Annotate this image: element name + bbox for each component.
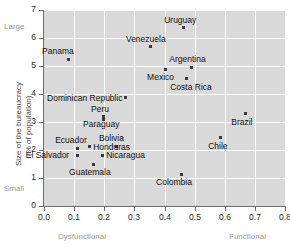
x-axis-label-functional: Functional	[229, 232, 266, 241]
data-point-label-ecuador: Ecuador	[55, 136, 87, 145]
data-point-dominican-republic[interactable]	[124, 96, 127, 99]
data-point-nicaragua[interactable]	[101, 154, 104, 157]
data-point-mexico[interactable]	[164, 68, 167, 71]
y-tick-label: 1	[20, 173, 36, 182]
data-point-el-salvador[interactable]	[76, 154, 79, 157]
data-point-label-dominican-republic: Dominican Republic	[47, 94, 123, 103]
grid-line-vertical	[195, 10, 196, 206]
data-point-panama[interactable]	[67, 58, 70, 61]
data-point-label-mexico: Mexico	[147, 73, 174, 82]
data-point-colombia[interactable]	[180, 173, 183, 176]
data-point-costa-rica[interactable]	[185, 77, 188, 80]
x-tick-mark	[195, 207, 196, 211]
data-point-label-peru: Peru	[91, 105, 109, 114]
x-tick-label: 0.4	[151, 213, 179, 222]
x-tick-label: 0.0	[30, 213, 58, 222]
y-tick-label: 6	[20, 33, 36, 42]
y-tick-mark	[39, 10, 43, 11]
x-tick-label: 0.1	[60, 213, 88, 222]
data-point-label-venezuela: Venezuela	[126, 35, 166, 44]
y-tick-mark	[39, 38, 43, 39]
y-axis-line	[43, 10, 44, 207]
data-point-honduras[interactable]	[88, 145, 91, 148]
data-point-label-chile: Chile	[208, 142, 227, 151]
y-tick-label: 7	[20, 5, 36, 14]
data-point-label-argentina: Argentina	[169, 55, 205, 64]
x-tick-label: 0.2	[90, 213, 118, 222]
data-point-uruguay[interactable]	[182, 26, 185, 29]
x-tick-label: 0.6	[211, 213, 239, 222]
y-axis-title-line1: Size of the bureaucracy	[14, 82, 24, 166]
data-point-label-uruguay: Uruguay	[164, 16, 196, 25]
x-tick-mark	[104, 207, 105, 211]
data-point-guatemala[interactable]	[92, 163, 95, 166]
x-tick-mark	[285, 207, 286, 211]
x-tick-label: 0.5	[181, 213, 209, 222]
grid-line-horizontal	[44, 10, 285, 11]
x-axis-label-dysfunctional: Dysfunctional	[58, 232, 106, 241]
grid-line-vertical	[255, 10, 256, 206]
x-tick-label: 0.7	[241, 213, 269, 222]
grid-line-vertical	[285, 10, 286, 206]
data-point-label-colombia: Colombia	[156, 178, 192, 187]
x-tick-mark	[44, 207, 45, 211]
x-tick-label: 0.8	[271, 213, 290, 222]
grid-line-vertical	[225, 10, 226, 206]
y-tick-mark	[39, 94, 43, 95]
grid-line-horizontal	[44, 150, 285, 151]
x-tick-mark	[74, 207, 75, 211]
data-point-label-brazil: Brazil	[231, 118, 252, 127]
x-tick-mark	[255, 207, 256, 211]
y-tick-mark	[39, 66, 43, 67]
y-axis-title-line2: (% of population)	[24, 96, 34, 156]
scatter-chart: 01234567 0.00.10.20.30.40.50.60.70.8 Pan…	[0, 0, 290, 250]
y-tick-mark	[39, 122, 43, 123]
y-tick-label: 0	[20, 201, 36, 210]
x-tick-mark	[134, 207, 135, 211]
data-point-label-nicaragua: Nicaragua	[106, 151, 145, 160]
data-point-venezuela[interactable]	[149, 45, 152, 48]
data-point-label-paraguay: Paraguay	[83, 120, 119, 129]
data-point-label-guatemala: Guatemala	[69, 168, 111, 177]
y-tick-mark	[39, 178, 43, 179]
y-axis-note-large: Large	[4, 22, 24, 31]
data-point-label-panama: Panama	[42, 47, 74, 56]
y-axis-note-small: Small	[4, 184, 24, 193]
data-point-chile[interactable]	[219, 136, 222, 139]
data-point-ecuador[interactable]	[76, 147, 79, 150]
data-point-argentina[interactable]	[190, 66, 193, 69]
x-tick-mark	[225, 207, 226, 211]
data-point-label-costa-rica: Costa Rica	[170, 83, 212, 92]
y-tick-mark	[39, 206, 43, 207]
x-tick-mark	[165, 207, 166, 211]
x-tick-label: 0.3	[120, 213, 148, 222]
y-tick-label: 5	[20, 61, 36, 70]
data-point-brazil[interactable]	[244, 112, 247, 115]
